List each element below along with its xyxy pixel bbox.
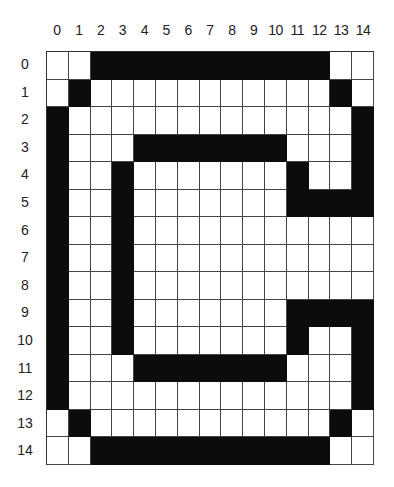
empty-cell: [352, 52, 374, 80]
filled-cell: [200, 52, 222, 80]
filled-cell: [156, 437, 178, 465]
column-label: 2: [90, 22, 112, 42]
filled-cell: [200, 355, 222, 383]
empty-cell: [352, 272, 374, 300]
empty-cell: [287, 382, 309, 410]
column-label: 12: [308, 22, 330, 42]
empty-cell: [265, 410, 287, 438]
empty-cell: [200, 107, 222, 135]
empty-cell: [200, 162, 222, 190]
row-label: 11: [10, 355, 40, 383]
empty-cell: [221, 327, 243, 355]
empty-cell: [309, 135, 331, 163]
empty-cell: [243, 107, 265, 135]
empty-cell: [69, 327, 91, 355]
empty-cell: [243, 272, 265, 300]
filled-cell: [47, 107, 69, 135]
empty-cell: [221, 410, 243, 438]
empty-cell: [265, 300, 287, 328]
empty-cell: [287, 107, 309, 135]
filled-cell: [309, 437, 331, 465]
empty-cell: [69, 135, 91, 163]
empty-cell: [309, 162, 331, 190]
filled-cell: [178, 437, 200, 465]
filled-cell: [112, 162, 134, 190]
empty-cell: [330, 327, 352, 355]
filled-cell: [112, 437, 134, 465]
filled-cell: [91, 52, 113, 80]
filled-cell: [134, 135, 156, 163]
empty-cell: [309, 217, 331, 245]
empty-cell: [287, 245, 309, 273]
empty-cell: [243, 80, 265, 108]
column-label: 6: [177, 22, 199, 42]
filled-cell: [352, 135, 374, 163]
filled-cell: [352, 382, 374, 410]
empty-cell: [221, 272, 243, 300]
empty-cell: [221, 245, 243, 273]
empty-cell: [287, 410, 309, 438]
filled-cell: [221, 52, 243, 80]
empty-cell: [134, 217, 156, 245]
filled-cell: [47, 327, 69, 355]
filled-cell: [352, 190, 374, 218]
filled-cell: [287, 300, 309, 328]
empty-cell: [178, 300, 200, 328]
empty-cell: [47, 410, 69, 438]
empty-cell: [200, 410, 222, 438]
empty-cell: [221, 190, 243, 218]
empty-cell: [221, 217, 243, 245]
empty-cell: [200, 245, 222, 273]
empty-cell: [69, 52, 91, 80]
column-label: 9: [243, 22, 265, 42]
empty-cell: [178, 410, 200, 438]
filled-cell: [352, 107, 374, 135]
filled-cell: [156, 355, 178, 383]
empty-cell: [112, 80, 134, 108]
empty-cell: [309, 355, 331, 383]
filled-cell: [178, 52, 200, 80]
empty-cell: [287, 355, 309, 383]
filled-cell: [112, 190, 134, 218]
filled-cell: [47, 162, 69, 190]
row-label: 5: [10, 189, 40, 217]
column-label: 1: [68, 22, 90, 42]
filled-cell: [134, 437, 156, 465]
column-label: 7: [199, 22, 221, 42]
row-label: 6: [10, 217, 40, 245]
row-label: 12: [10, 382, 40, 410]
empty-cell: [91, 162, 113, 190]
empty-cell: [91, 272, 113, 300]
empty-cell: [156, 382, 178, 410]
filled-cell: [112, 52, 134, 80]
column-label: 13: [330, 22, 352, 42]
row-label: 3: [10, 134, 40, 162]
empty-cell: [69, 245, 91, 273]
empty-cell: [309, 327, 331, 355]
empty-cell: [200, 217, 222, 245]
empty-cell: [221, 162, 243, 190]
filled-cell: [309, 52, 331, 80]
empty-cell: [91, 300, 113, 328]
empty-cell: [200, 327, 222, 355]
filled-cell: [330, 190, 352, 218]
empty-cell: [112, 355, 134, 383]
filled-cell: [265, 135, 287, 163]
filled-cell: [47, 217, 69, 245]
filled-cell: [156, 52, 178, 80]
filled-cell: [91, 437, 113, 465]
filled-cell: [47, 245, 69, 273]
empty-cell: [91, 327, 113, 355]
row-label: 8: [10, 272, 40, 300]
empty-cell: [352, 437, 374, 465]
empty-cell: [221, 382, 243, 410]
empty-cell: [178, 217, 200, 245]
empty-cell: [91, 190, 113, 218]
empty-cell: [156, 245, 178, 273]
empty-cell: [134, 162, 156, 190]
filled-cell: [287, 162, 309, 190]
empty-cell: [200, 272, 222, 300]
empty-cell: [134, 272, 156, 300]
empty-cell: [91, 217, 113, 245]
empty-cell: [69, 437, 91, 465]
